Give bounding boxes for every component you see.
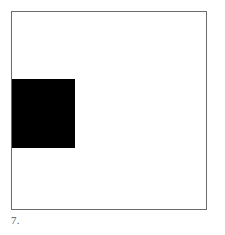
figure-plate: 7. <box>0 0 225 235</box>
figure-caption: 7. <box>11 213 20 227</box>
black-square-shape <box>12 79 75 148</box>
outer-square-frame <box>11 11 207 210</box>
